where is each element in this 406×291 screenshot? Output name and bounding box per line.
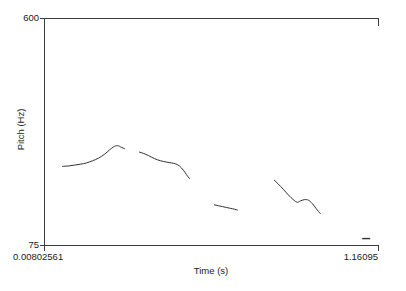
pitch-curve-segment-2 [139,152,189,178]
pitch-curve-segment-1 [63,146,125,167]
pitch-curve-segment-4 [274,180,320,213]
pitch-curve-segment-3 [214,205,237,210]
plot-frame [40,19,379,251]
axis-spines [45,19,379,246]
pitch-curves [63,146,321,214]
pitch-contour-figure: 600 75 0.00802561 1.16095 Time (s) Pitch… [0,0,406,291]
plot-canvas [0,0,406,291]
